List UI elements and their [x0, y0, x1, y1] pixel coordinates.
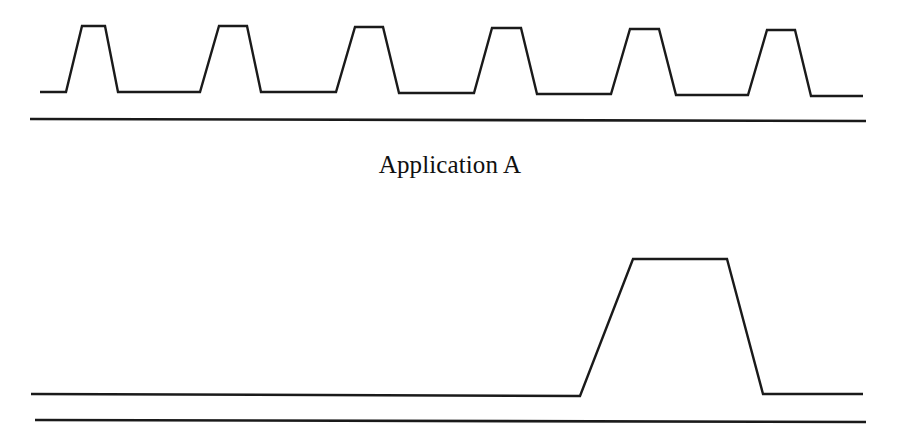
- waveform-figure: Application A: [0, 0, 900, 447]
- waveform-canvas: [0, 0, 900, 447]
- panel-caption-application-a: Application A: [0, 152, 900, 177]
- top-waveform-trace: [40, 26, 863, 96]
- top-axis-line: [30, 119, 866, 121]
- bottom-axis-line: [35, 420, 866, 422]
- bottom-waveform-trace: [31, 259, 863, 396]
